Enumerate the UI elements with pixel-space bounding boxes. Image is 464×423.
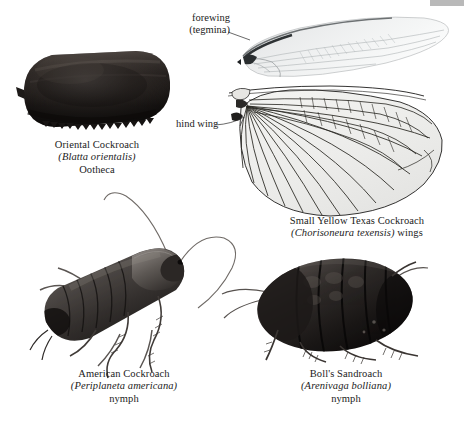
caption-ootheca-scientific-name: (Blatta orientalis) [4, 151, 190, 163]
hind-wing-leader-line [215, 117, 244, 125]
caption-wings-common-name: Small Yellow Texas Cockroach [254, 215, 460, 227]
label-forewing-line2: (tegmina) [186, 24, 230, 36]
caption-ootheca-common-name: Oriental Cockroach [4, 139, 190, 151]
caption-bolls-sandroach-nymph: Boll's Sandroach (Arenivaga bolliana) ny… [258, 368, 434, 405]
caption-small-yellow-texas-cockroach-wings: Small Yellow Texas Cockroach (Chorisoneu… [254, 215, 460, 240]
caption-wings-stage: wings [397, 227, 423, 238]
cockroach-illustration-plate: forewing (tegmina) hind wing Oriental Co… [0, 0, 464, 423]
page-edge-artifact [430, 0, 464, 6]
caption-bolls-scientific-name: (Arenivaga bolliana) [258, 380, 434, 392]
caption-oriental-cockroach-ootheca: Oriental Cockroach (Blatta orientalis) O… [4, 139, 190, 176]
label-forewing: forewing (tegmina) [186, 12, 230, 37]
forewing-tegmina-art [237, 17, 449, 77]
specimen-artwork-layer [0, 0, 464, 423]
caption-american-scientific-name: (Periplaneta americana) [26, 380, 222, 392]
american-cockroach-nymph-art [30, 193, 236, 378]
caption-bolls-common-name: Boll's Sandroach [258, 368, 434, 380]
caption-wings-scientific-line: (Chorisoneura texensis) wings [254, 227, 460, 239]
caption-american-common-name: American Cockroach [26, 368, 222, 380]
caption-bolls-stage: nymph [258, 393, 434, 405]
hind-wing-leader-tick [240, 117, 244, 126]
hind-wing-art [228, 86, 442, 216]
leader-lines [215, 32, 250, 126]
caption-american-cockroach-nymph: American Cockroach (Periplaneta american… [26, 368, 222, 405]
caption-wings-scientific-name: (Chorisoneura texensis) [291, 227, 395, 238]
label-hind-wing: hind wing [176, 118, 216, 130]
forewing-leader-line [228, 32, 250, 40]
caption-american-stage: nymph [26, 393, 222, 405]
bolls-sandroach-nymph-art [222, 251, 428, 364]
oriental-cockroach-ootheca-art [16, 51, 170, 130]
label-hind-wing-line1: hind wing [176, 118, 216, 130]
label-forewing-line1: forewing [186, 12, 230, 24]
caption-ootheca-stage: Ootheca [4, 164, 190, 176]
